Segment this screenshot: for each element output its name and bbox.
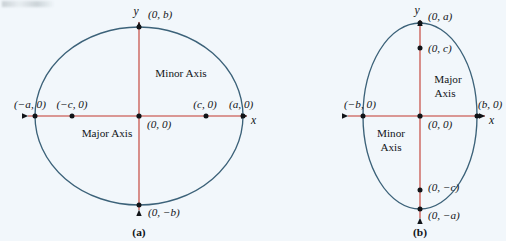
panel-b-x-axis-name: x bbox=[488, 114, 495, 127]
panel-a-center-point bbox=[136, 113, 141, 118]
panel-b-minor-axis-label-line2: Axis bbox=[380, 141, 401, 153]
panel-b-right-vertex-point bbox=[475, 114, 480, 119]
panel-a-left-focus-point bbox=[70, 114, 75, 119]
panel-a-major-axis-label: Major Axis bbox=[82, 127, 133, 139]
panel-a-minor-axis-label: Minor Axis bbox=[155, 67, 206, 79]
panel-b-lower-focus-point bbox=[418, 188, 423, 193]
panel-a-label-right-focus: (c, 0) bbox=[193, 98, 217, 111]
panel-a-label-right-vertex: (a, 0) bbox=[229, 98, 254, 111]
panel-b-upper-focus-point bbox=[418, 46, 423, 51]
panel-b-label-left-vertex: (−b, 0) bbox=[344, 98, 376, 111]
panel-b-label-upper-focus: (0, c) bbox=[428, 42, 452, 55]
ellipse-figure-pair: y x (0, b) (0, −b) (−a, 0) (a, 0) (−c, 0… bbox=[0, 0, 506, 241]
panel-a-label-bottom-vertex: (0, −b) bbox=[148, 206, 180, 219]
panel-b-y-axis-name: y bbox=[413, 4, 420, 17]
panel-a: y x (0, b) (0, −b) (−a, 0) (a, 0) (−c, 0… bbox=[14, 5, 257, 239]
panel-b-minor-axis-label-line1: Minor bbox=[377, 127, 405, 139]
panel-b-center-point bbox=[417, 113, 422, 118]
panel-a-label-left-focus: (−c, 0) bbox=[56, 98, 87, 111]
panel-a-label-center: (0, 0) bbox=[147, 118, 172, 131]
figure-canvas: y x (0, b) (0, −b) (−a, 0) (a, 0) (−c, 0… bbox=[0, 0, 506, 241]
panel-a-label-left-vertex: (−a, 0) bbox=[14, 98, 46, 111]
panel-a-x-axis-name: x bbox=[250, 114, 257, 127]
panel-a-bottom-vertex-point bbox=[137, 203, 142, 208]
panel-a-right-focus-point bbox=[204, 114, 209, 119]
scan-artifact-smudge bbox=[2, 1, 54, 7]
panel-b-label-bottom-vertex: (0, −a) bbox=[428, 209, 460, 222]
panel-a-left-vertex-point bbox=[33, 114, 38, 119]
panel-b-label-top-vertex: (0, a) bbox=[428, 10, 453, 23]
panel-b-label-center: (0, 0) bbox=[428, 118, 453, 131]
panel-a-y-axis-name: y bbox=[132, 5, 139, 18]
panel-b-caption: (b) bbox=[413, 226, 427, 239]
panel-a-caption: (a) bbox=[132, 226, 145, 239]
panel-b-left-vertex-point bbox=[361, 114, 366, 119]
panel-b-top-vertex-point bbox=[418, 21, 423, 26]
panel-b-major-axis-label-line2: Axis bbox=[434, 87, 455, 99]
panel-b-label-right-vertex: (b, 0) bbox=[478, 98, 503, 111]
panel-b-bottom-vertex-point bbox=[418, 207, 423, 212]
panel-a-label-top-vertex: (0, b) bbox=[148, 8, 173, 21]
panel-a-right-vertex-point bbox=[241, 114, 246, 119]
panel-b-label-lower-focus: (0, −c) bbox=[428, 181, 459, 194]
panel-b: y x (0, a) (0, c) (0, −c) (0, −a) (−b, 0… bbox=[344, 4, 502, 239]
panel-a-top-vertex-point bbox=[137, 25, 142, 30]
panel-b-major-axis-label-line1: Major bbox=[434, 73, 462, 85]
